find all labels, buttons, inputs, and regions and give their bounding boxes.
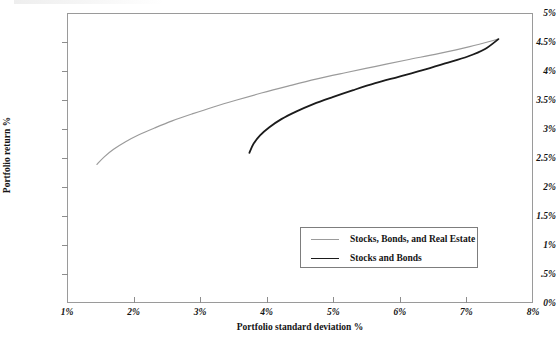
y-axis-tick-label: 3.5% [498, 95, 556, 105]
chart-legend: Stocks, Bonds, and Real Estate Stocks an… [300, 227, 478, 268]
x-axis-tick-label: 2% [114, 307, 154, 318]
y-axis-tick-label: 2% [498, 182, 556, 192]
y-axis-tick-mark [62, 274, 68, 275]
y-axis-tick-mark [62, 187, 68, 188]
y-axis-tick-label: .5% [498, 269, 556, 279]
legend-line-swatch-black [311, 258, 339, 259]
x-axis-tick-mark [200, 297, 201, 303]
y-axis-tick-mark [62, 100, 68, 101]
y-axis-tick-label: 4.5% [498, 37, 556, 47]
legend-label-0: Stocks, Bonds, and Real Estate [350, 234, 475, 245]
y-axis-tick-label: 3% [498, 124, 556, 134]
x-axis-tick-mark [333, 297, 334, 303]
x-axis-tick-label: 7% [446, 307, 486, 318]
x-axis-tick-label: 1% [47, 307, 87, 318]
y-axis-tick-label: 5% [498, 8, 556, 18]
y-axis-tick-label: 4% [498, 66, 556, 76]
x-axis-tick-mark [466, 297, 467, 303]
efficient-frontier-chart: 0%.5%1%1.5%2%2.5%3%3.5%4%4.5%5% 1%2%3%4%… [0, 0, 556, 349]
y-axis-tick-mark [62, 129, 68, 130]
legend-item-stocks-bonds-real-estate: Stocks, Bonds, and Real Estate [301, 229, 479, 249]
legend-item-stocks-and-bonds: Stocks and Bonds [301, 248, 479, 268]
x-axis-title: Portfolio standard deviation % [67, 322, 533, 332]
legend-label-1: Stocks and Bonds [350, 253, 422, 264]
y-axis-tick-label: 1.5% [498, 211, 556, 221]
x-axis-tick-label: 5% [313, 307, 353, 318]
y-axis-tick-mark [62, 158, 68, 159]
x-axis-tick-label: 6% [380, 307, 420, 318]
y-axis-tick-label: 1% [498, 240, 556, 250]
x-axis-tick-mark [134, 297, 135, 303]
legend-line-swatch-gray [311, 239, 339, 240]
y-axis-tick-mark [62, 216, 68, 217]
y-axis-title: Portfolio return % [2, 100, 12, 210]
x-axis-tick-label: 3% [180, 307, 220, 318]
x-axis-tick-label: 4% [247, 307, 287, 318]
x-axis-tick-label: 8% [513, 307, 553, 318]
cropped-header-artifact [14, 0, 164, 4]
y-axis-tick-mark [62, 71, 68, 72]
y-axis-tick-mark [62, 42, 68, 43]
y-axis-tick-mark [62, 245, 68, 246]
x-axis-tick-mark [400, 297, 401, 303]
x-axis-tick-mark [267, 297, 268, 303]
y-axis-tick-label: 2.5% [498, 153, 556, 163]
